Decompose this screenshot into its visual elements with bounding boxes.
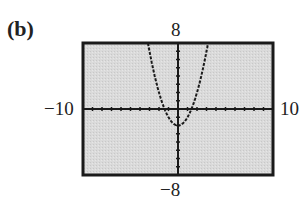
- calculator-graph-screen: [0, 0, 301, 215]
